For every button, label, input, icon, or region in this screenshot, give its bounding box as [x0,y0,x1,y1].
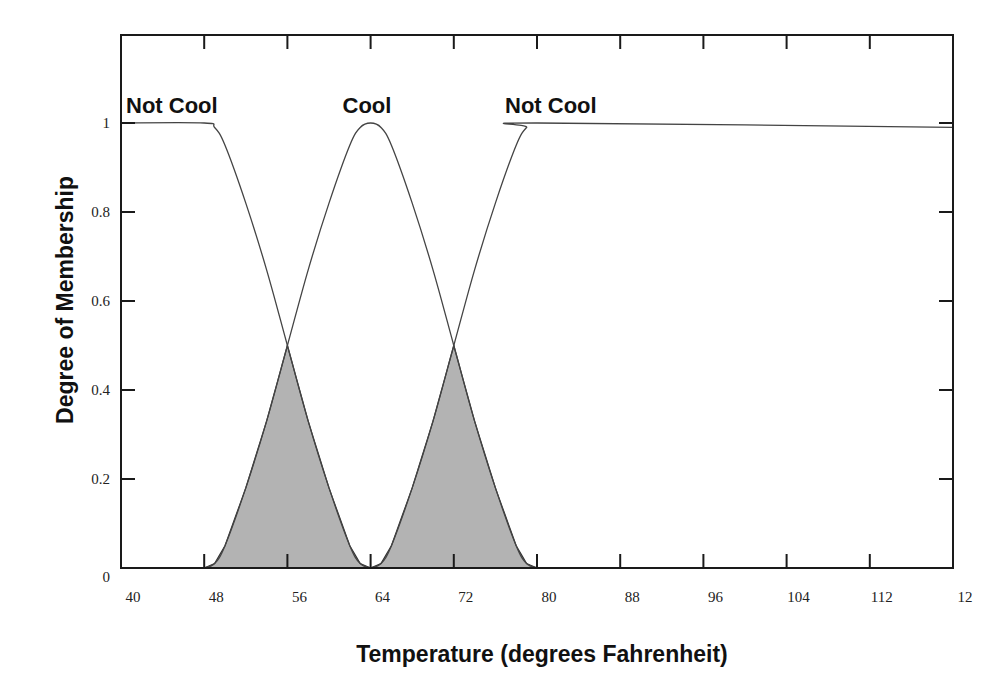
y-tick-labels: 00.20.40.60.81 [91,115,110,585]
x-tick-label: 48 [209,589,224,605]
x-tick-label: 80 [542,589,557,605]
x-tick-label: 96 [708,589,724,605]
x-tick-label: 112 [871,589,893,605]
set-label: Not Cool [505,93,597,118]
x-tick-label: 64 [375,589,391,605]
y-axis-title: Degree of Membership [52,176,78,424]
x-tick-label: 12 [958,589,973,605]
y-tick-label: 1 [103,115,111,131]
set-label: Not Cool [126,93,218,118]
x-axis-title: Temperature (degrees Fahrenheit) [356,641,728,667]
y-tick-label: 0.8 [91,204,110,220]
x-tick-label: 72 [458,589,473,605]
y-tick-label: 0.6 [91,293,110,309]
x-tick-label: 88 [625,589,640,605]
y-tick-label: 0.4 [91,382,110,398]
overlap-shading [204,346,537,569]
set-label: Cool [343,93,392,118]
x-tick-labels: 404856647280889610411212 [126,589,973,605]
x-tick-label: 56 [292,589,308,605]
set-labels: Not CoolCoolNot Cool [126,93,597,118]
y-tick-label: 0.2 [91,471,110,487]
y-tick-label: 0 [103,569,111,585]
x-tick-label: 40 [126,589,141,605]
x-tick-label: 104 [787,589,810,605]
membership-chart: 404856647280889610411212 00.20.40.60.81 … [0,0,1002,697]
